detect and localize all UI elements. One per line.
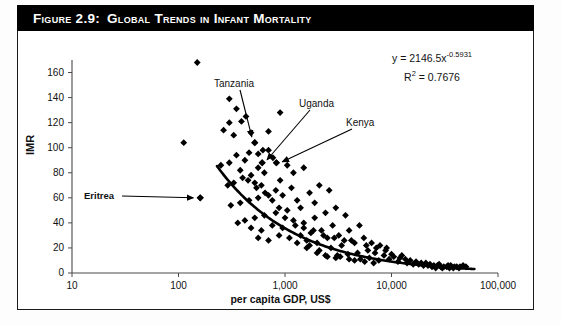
figure-container: Figure 2.9:Global Trends in Infant Morta… bbox=[0, 0, 561, 325]
y-tick-label: 140 bbox=[30, 93, 64, 103]
annotation-label-eritrea: Eritrea bbox=[84, 190, 114, 201]
equation-line-2: R2 = 0.7676 bbox=[352, 66, 512, 85]
figure-title-banner: Figure 2.9:Global Trends in Infant Morta… bbox=[17, 5, 534, 31]
equation-exponent: -0.5931 bbox=[447, 50, 472, 59]
annotation-label-tanzania: Tanzania bbox=[214, 78, 254, 89]
r-squared-value: = 0.7676 bbox=[416, 70, 460, 82]
y-tick-label: 120 bbox=[30, 118, 64, 128]
r-squared-symbol: R bbox=[404, 70, 412, 82]
x-tick-label: 10 bbox=[37, 281, 107, 291]
y-tick-label: 160 bbox=[30, 68, 64, 78]
y-tick-label: 20 bbox=[30, 243, 64, 253]
equation-line-1: y = 2146.5x-0.5931 bbox=[352, 47, 512, 66]
x-axis-title: per capita GDP, US$ bbox=[0, 293, 561, 305]
equation-body: y = 2146.5x bbox=[392, 52, 447, 64]
annotation-label-kenya: Kenya bbox=[346, 117, 374, 128]
figure-title-text: Figure 2.9:Global Trends in Infant Morta… bbox=[33, 9, 312, 27]
y-tick-label: 0 bbox=[30, 268, 64, 278]
x-tick-label: 10,000 bbox=[357, 281, 427, 291]
figure-title: Global Trends in Infant Mortality bbox=[107, 11, 311, 26]
figure-number-label: Figure 2.9: bbox=[33, 11, 100, 26]
y-tick-label: 80 bbox=[30, 168, 64, 178]
y-tick-label: 40 bbox=[30, 218, 64, 228]
y-tick-label: 60 bbox=[30, 193, 64, 203]
annotation-label-uganda: Uganda bbox=[299, 98, 334, 109]
x-tick-label: 100 bbox=[144, 281, 214, 291]
regression-equation-annotation: y = 2146.5x-0.5931 R2 = 0.7676 bbox=[352, 47, 512, 84]
x-tick-label: 1,000 bbox=[250, 281, 320, 291]
y-tick-label: 100 bbox=[30, 143, 64, 153]
x-tick-label: 100,000 bbox=[463, 281, 533, 291]
